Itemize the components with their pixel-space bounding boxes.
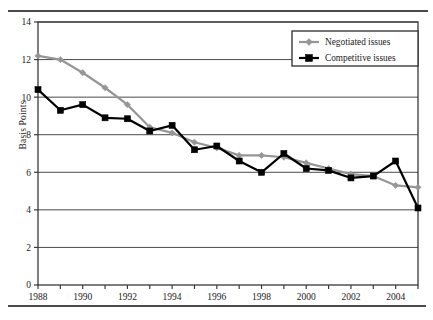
x-tick-label: 2000 bbox=[297, 292, 316, 302]
data-point-marker bbox=[326, 167, 332, 173]
data-point-marker bbox=[236, 152, 242, 158]
y-tick-label: 6 bbox=[26, 168, 31, 178]
data-point-marker bbox=[169, 122, 175, 128]
x-axis-ticks: 198819901992199419961998200020022004 bbox=[29, 285, 419, 302]
x-tick-label: 1994 bbox=[163, 292, 182, 302]
y-tick-label: 4 bbox=[26, 205, 31, 215]
chart-figure: Basis Points 02468101214 198819901992199… bbox=[0, 0, 433, 320]
x-tick-label: 1992 bbox=[118, 292, 137, 302]
legend-label: Negotiated issues bbox=[325, 37, 391, 47]
data-point-marker bbox=[147, 128, 153, 134]
data-point-marker bbox=[415, 184, 421, 190]
y-tick-label: 10 bbox=[22, 93, 32, 103]
data-point-marker bbox=[348, 175, 354, 181]
data-point-marker bbox=[303, 166, 309, 172]
x-tick-label: 2004 bbox=[386, 292, 405, 302]
series-negotiated-issues bbox=[35, 53, 421, 191]
data-point-marker bbox=[370, 173, 376, 179]
data-point-marker bbox=[35, 87, 41, 93]
x-tick-label: 1996 bbox=[207, 292, 226, 302]
data-point-marker bbox=[393, 158, 399, 164]
legend-label: Competitive issues bbox=[325, 53, 396, 63]
data-point-marker bbox=[35, 53, 41, 59]
series-competitive-issues bbox=[35, 87, 421, 211]
x-tick-label: 1988 bbox=[29, 292, 48, 302]
chart-legend: Negotiated issuesCompetitive issues bbox=[292, 31, 418, 66]
data-point-marker bbox=[102, 115, 108, 121]
data-point-marker bbox=[124, 116, 130, 122]
data-point-marker bbox=[191, 139, 197, 145]
data-point-marker bbox=[259, 169, 265, 175]
data-point-marker bbox=[393, 182, 399, 188]
y-tick-label: 0 bbox=[26, 280, 31, 290]
y-tick-label: 14 bbox=[22, 17, 32, 27]
x-tick-label: 2002 bbox=[341, 292, 360, 302]
x-tick-label: 1990 bbox=[73, 292, 92, 302]
data-point-marker bbox=[191, 147, 197, 153]
data-point-marker bbox=[80, 102, 86, 108]
data-point-marker bbox=[303, 160, 309, 166]
data-point-marker bbox=[236, 158, 242, 164]
line-chart-plot: 02468101214 1988199019921994199619982000… bbox=[0, 0, 433, 320]
data-point-marker bbox=[57, 107, 63, 113]
y-axis-ticks: 02468101214 bbox=[22, 17, 39, 290]
data-point-marker bbox=[214, 143, 220, 149]
x-tick-label: 1998 bbox=[252, 292, 271, 302]
data-point-marker bbox=[415, 205, 421, 211]
y-tick-label: 12 bbox=[22, 55, 32, 65]
y-tick-label: 2 bbox=[26, 243, 31, 253]
data-point-marker bbox=[258, 152, 264, 158]
y-tick-label: 8 bbox=[26, 130, 31, 140]
data-point-marker bbox=[281, 151, 287, 157]
